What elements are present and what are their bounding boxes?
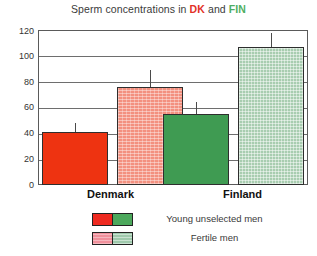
legend-swatch-pair-young bbox=[92, 213, 133, 226]
errorbar-finland-fertile bbox=[271, 33, 272, 47]
bar-finland-young-unselected bbox=[163, 114, 229, 185]
bars-layer bbox=[38, 30, 308, 185]
title-dk-token: DK bbox=[190, 3, 205, 15]
chart-figure: Sperm concentrations in DK and FIN 0 20 … bbox=[0, 0, 317, 256]
chart-title: Sperm concentrations in DK and FIN bbox=[0, 3, 317, 15]
legend-row-fertile: Fertile men bbox=[92, 230, 282, 249]
y-tick-40: 40 bbox=[4, 128, 34, 138]
title-middle: and bbox=[205, 3, 229, 15]
errorbar-finland-young bbox=[196, 102, 197, 114]
errorbar-denmark-young bbox=[75, 123, 76, 132]
legend-swatch-pair-fertile bbox=[92, 232, 133, 245]
title-fin-token: FIN bbox=[229, 3, 246, 15]
legend-label-fertile: Fertile men bbox=[147, 230, 282, 245]
legend-swatch-denmark-fertile bbox=[93, 233, 112, 244]
y-tick-80: 80 bbox=[4, 77, 34, 87]
category-label-finland: Finland bbox=[175, 188, 310, 200]
y-tick-120: 120 bbox=[4, 26, 34, 36]
y-tick-20: 20 bbox=[4, 154, 34, 164]
legend-swatch-denmark-young bbox=[93, 214, 112, 225]
bar-finland-fertile bbox=[238, 47, 304, 185]
y-tick-100: 100 bbox=[4, 51, 34, 61]
legend-swatch-finland-young bbox=[112, 214, 132, 225]
legend-swatch-finland-fertile bbox=[112, 233, 132, 244]
bar-denmark-young-unselected bbox=[42, 132, 108, 185]
y-tick-0: 0 bbox=[4, 180, 34, 190]
title-prefix: Sperm concentrations in bbox=[71, 3, 190, 15]
legend-row-young-unselected: Young unselected men bbox=[92, 211, 282, 230]
category-label-denmark: Denmark bbox=[38, 188, 183, 200]
errorbar-denmark-fertile bbox=[150, 70, 151, 87]
legend-label-young-unselected: Young unselected men bbox=[147, 211, 282, 226]
chart-legend: Young unselected men Fertile men bbox=[92, 211, 282, 249]
y-tick-60: 60 bbox=[4, 102, 34, 112]
